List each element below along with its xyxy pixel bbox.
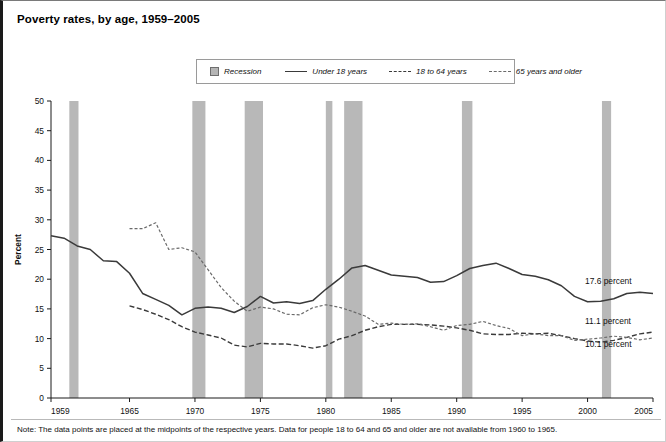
x-axis-tick-label: 1995: [513, 406, 532, 416]
y-axis-tick-label: 5: [39, 363, 44, 373]
recession-band: [462, 101, 472, 398]
x-axis-tick-label: 2005: [634, 406, 653, 416]
chart-footnote: Note: The data points are placed at the …: [17, 425, 557, 434]
figure-container: Poverty rates, by age, 1959–2005 Recessi…: [0, 0, 666, 442]
y-axis-tick-label: 10: [35, 334, 45, 344]
y-axis-tick-label: 45: [35, 126, 45, 136]
x-axis-tick-label: 1970: [186, 406, 205, 416]
y-axis-tick-label: 15: [35, 304, 45, 314]
y-axis-tick-label: 50: [35, 96, 45, 106]
recession-band: [344, 101, 362, 398]
recession-band: [192, 101, 205, 398]
end-label-18-to-64: 10.1 percent: [585, 339, 632, 349]
y-axis-tick-label: 25: [35, 245, 45, 255]
recession-band: [245, 101, 263, 398]
end-label-under-18: 17.6 percent: [585, 276, 632, 286]
x-axis-tick-label: 1965: [120, 406, 139, 416]
end-label-65-and-older: 11.1 percent: [585, 316, 632, 326]
x-axis-tick-label: 1975: [251, 406, 270, 416]
recession-band: [602, 101, 611, 398]
line-chart-plot: 0510152025303540455019591965197019751980…: [3, 1, 666, 442]
x-axis-tick-label: 1990: [447, 406, 466, 416]
series-line-65-years-and-older: [130, 223, 653, 341]
y-axis-tick-label: 0: [39, 393, 44, 403]
y-axis-tick-label: 40: [35, 155, 45, 165]
series-line-18-to-64-years: [130, 306, 653, 348]
y-axis-tick-label: 30: [35, 215, 45, 225]
recession-bands: [69, 101, 611, 398]
y-axis-tick-label: 35: [35, 185, 45, 195]
y-axis-title: Percent: [13, 234, 23, 265]
y-axis-tick-label: 20: [35, 274, 45, 284]
x-axis-tick-label: 1985: [382, 406, 401, 416]
x-axis-tick-label: 2000: [578, 406, 597, 416]
note-divider: [11, 419, 661, 420]
axes: 0510152025303540455019591965197019751980…: [13, 96, 653, 416]
x-axis-tick-label: 1959: [51, 406, 70, 416]
x-axis-tick-label: 1980: [317, 406, 336, 416]
recession-band: [69, 101, 78, 398]
recession-band: [326, 101, 333, 398]
